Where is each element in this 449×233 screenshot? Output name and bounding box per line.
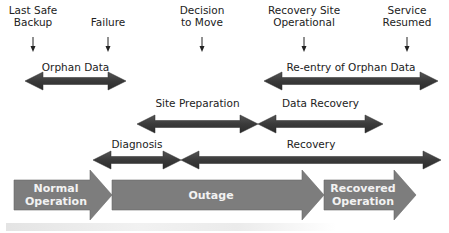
span-label: Diagnosis bbox=[111, 138, 162, 150]
milestone-label: Decision bbox=[180, 4, 225, 16]
span-arrow-data-recovery: Data Recovery bbox=[258, 97, 383, 133]
milestone: Failure bbox=[91, 16, 126, 52]
span-label: Re-entry of Orphan Data bbox=[286, 61, 415, 73]
milestone-label: Resumed bbox=[383, 16, 432, 28]
phase-label: Normal bbox=[34, 182, 79, 195]
phase-arrows: NormalOperationOutageRecoveredOperation bbox=[14, 170, 416, 220]
phase-arrow-normal-operation: NormalOperation bbox=[14, 170, 112, 220]
milestone-markers: Last SafeBackupFailureDecisionto MoveRec… bbox=[9, 4, 432, 52]
span-arrow-diagnosis: Diagnosis bbox=[93, 138, 181, 169]
down-arrow-head-icon bbox=[31, 46, 36, 52]
milestone: Decisionto Move bbox=[180, 4, 225, 52]
double-arrow-icon bbox=[137, 115, 258, 133]
phase-arrow-outage: Outage bbox=[112, 170, 324, 220]
down-arrow-head-icon bbox=[106, 46, 111, 52]
milestone-label: Recovery Site bbox=[268, 4, 340, 16]
phase-label: Outage bbox=[188, 189, 233, 202]
milestone-label: Backup bbox=[14, 16, 53, 28]
down-arrow-head-icon bbox=[200, 46, 205, 52]
double-arrow-icon bbox=[181, 151, 441, 169]
down-arrow-head-icon bbox=[405, 46, 410, 52]
disaster-recovery-timeline-diagram: Last SafeBackupFailureDecisionto MoveRec… bbox=[0, 0, 449, 233]
milestone: Last SafeBackup bbox=[9, 4, 57, 52]
milestone-label: Operational bbox=[273, 16, 335, 28]
phase-label: Recovered bbox=[330, 182, 395, 195]
milestone-label: Failure bbox=[91, 16, 126, 28]
span-arrow-site-preparation: Site Preparation bbox=[137, 97, 258, 133]
span-label: Orphan Data bbox=[42, 61, 109, 73]
milestone-label: Last Safe bbox=[9, 4, 57, 16]
down-arrow-head-icon bbox=[302, 46, 307, 52]
phase-label: Operation bbox=[25, 195, 87, 208]
phase-label: Operation bbox=[332, 195, 394, 208]
double-arrow-icon bbox=[264, 72, 438, 90]
figure-caption bbox=[6, 223, 336, 231]
milestone-label: to Move bbox=[181, 16, 223, 28]
span-label: Site Preparation bbox=[155, 97, 239, 109]
double-arrow-icon bbox=[25, 72, 126, 90]
span-label: Data Recovery bbox=[282, 97, 359, 109]
span-arrow-orphan-data: Orphan Data bbox=[25, 61, 126, 90]
milestone: ServiceResumed bbox=[383, 4, 432, 52]
span-arrow-re-entry-of-orphan-data: Re-entry of Orphan Data bbox=[264, 61, 438, 90]
span-label: Recovery bbox=[287, 138, 336, 150]
double-arrow-icon bbox=[258, 115, 383, 133]
double-arrow-icon bbox=[93, 151, 181, 169]
milestone-label: Service bbox=[388, 4, 427, 16]
span-arrows: Orphan DataRe-entry of Orphan DataSite P… bbox=[25, 61, 441, 169]
phase-arrow-recovered-operation: RecoveredOperation bbox=[324, 170, 416, 220]
span-arrow-recovery: Recovery bbox=[181, 138, 441, 169]
milestone: Recovery SiteOperational bbox=[268, 4, 340, 52]
